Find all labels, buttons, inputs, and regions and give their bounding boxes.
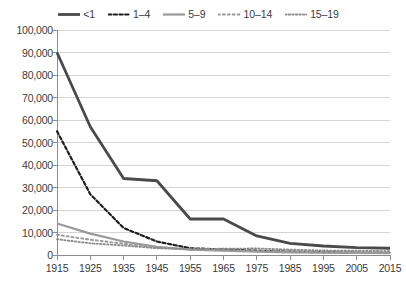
y-axis-tick-label: 90,000 <box>1 48 53 58</box>
y-axis-tick-label: 30,000 <box>1 183 53 193</box>
plot-svg <box>57 30 390 255</box>
legend-swatch-icon <box>285 10 307 19</box>
legend-item[interactable]: 5–9 <box>163 8 205 20</box>
legend-label: 5–9 <box>188 8 205 20</box>
gridlines <box>57 30 390 255</box>
x-axis-tick-label: 1995 <box>306 262 340 274</box>
y-axis-tick-label: 20,000 <box>1 205 53 215</box>
legend-label: 1–4 <box>133 8 150 20</box>
legend-label: 15–19 <box>310 8 339 20</box>
y-axis-tick-label: 80,000 <box>1 70 53 80</box>
x-axis-tick-label: 1955 <box>173 262 207 274</box>
legend-swatch-icon <box>163 10 185 19</box>
x-axis-tick-label: 1985 <box>273 262 307 274</box>
x-axis-tick-label: 1965 <box>207 262 241 274</box>
legend-label: 10–14 <box>243 8 272 20</box>
x-axis-tick-label: 1945 <box>140 262 174 274</box>
legend-swatch-icon <box>108 10 130 19</box>
x-axis-labels: 1915192519351945195519651975198519952005… <box>57 262 390 278</box>
chart-legend: <11–45–910–1415–19 <box>0 4 397 24</box>
legend-item[interactable]: 10–14 <box>218 8 272 20</box>
y-axis-tick-label: 60,000 <box>1 115 53 125</box>
series-line <box>57 131 390 253</box>
x-axis-tick-label: 1935 <box>107 262 141 274</box>
plot-area <box>57 30 390 255</box>
y-axis-tick-label: 40,000 <box>1 160 53 170</box>
x-axis-tick-label: 1925 <box>73 262 107 274</box>
y-axis-tick-label: 50,000 <box>1 138 53 148</box>
legend-swatch-icon <box>58 10 80 19</box>
x-axis-ticks <box>57 255 390 260</box>
x-axis-tick-label: 1975 <box>240 262 274 274</box>
legend-label: <1 <box>83 8 95 20</box>
y-axis-tick-label: 70,000 <box>1 93 53 103</box>
y-axis-tick-label: 10,000 <box>1 228 53 238</box>
legend-item[interactable]: <1 <box>58 8 95 20</box>
x-axis-tick-label: 1915 <box>40 262 74 274</box>
legend-swatch-icon <box>218 10 240 19</box>
x-axis-tick-label: 2015 <box>373 262 406 274</box>
x-axis-tick-label: 2005 <box>340 262 374 274</box>
legend-item[interactable]: 1–4 <box>108 8 150 20</box>
data-series-group <box>57 53 390 254</box>
y-axis-tick-label: 0 <box>1 250 53 260</box>
series-line <box>57 53 390 249</box>
y-axis-labels: 010,00020,00030,00040,00050,00060,00070,… <box>0 0 53 289</box>
y-axis-tick-label: 100,000 <box>1 25 53 35</box>
legend-item[interactable]: 15–19 <box>285 8 339 20</box>
